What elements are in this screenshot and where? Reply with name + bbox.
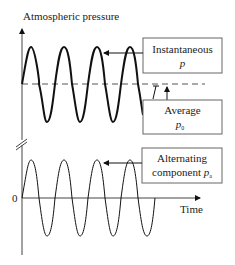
x-axis-label: Time	[180, 203, 203, 215]
instantaneous-symbol: p	[179, 57, 186, 69]
average-label: Average	[164, 104, 201, 116]
alternating-label: Alternating	[157, 152, 208, 164]
alternating-label-2: component pa	[152, 166, 212, 179]
instantaneous-label: Instantaneous	[152, 43, 212, 55]
zero-label: 0	[12, 192, 18, 204]
y-axis-label: Atmospheric pressure	[23, 10, 119, 22]
average-tick	[153, 86, 156, 99]
pressure-diagram: Atmospheric pressure Instantaneous p Ave…	[0, 0, 235, 265]
